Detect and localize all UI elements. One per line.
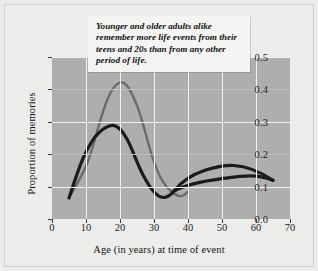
gridline-x-10 xyxy=(86,57,87,219)
plot-area xyxy=(52,57,290,219)
xtick-label-70: 70 xyxy=(278,222,302,233)
chart-figure: 0.5 0.4 0.3 0.2 0.1 0.0 0 10 20 30 40 50… xyxy=(0,0,318,271)
gridline-x-60 xyxy=(256,57,257,219)
xtick-label-10: 10 xyxy=(74,222,98,233)
data-curves xyxy=(52,57,290,219)
annotation-callout: Younger and older adults alike remember … xyxy=(88,16,250,72)
gridline-x-20 xyxy=(120,57,121,219)
ytick-mark-0.1 xyxy=(48,187,52,188)
ytick-label-0.4: 0.4 xyxy=(238,84,268,95)
ytick-label-0.3: 0.3 xyxy=(238,116,268,127)
y-axis-title: Proportion of memories xyxy=(26,69,37,219)
x-axis-title: Age (in years) at time of event xyxy=(0,244,318,255)
xtick-label-20: 20 xyxy=(108,222,132,233)
xtick-label-0: 0 xyxy=(40,222,64,233)
ytick-mark-0.4 xyxy=(48,89,52,90)
gridline-x-30 xyxy=(154,57,155,219)
ytick-label-0.2: 0.2 xyxy=(238,149,268,160)
gridline-x-50 xyxy=(222,57,223,219)
ytick-mark-0.3 xyxy=(48,122,52,123)
ytick-label-0.1: 0.1 xyxy=(238,181,268,192)
xtick-label-50: 50 xyxy=(210,222,234,233)
xtick-label-30: 30 xyxy=(142,222,166,233)
ytick-mark-0.2 xyxy=(48,154,52,155)
xtick-label-40: 40 xyxy=(176,222,200,233)
xtick-label-60: 60 xyxy=(244,222,268,233)
ytick-mark-0.5 xyxy=(48,57,52,58)
gridline-x-40 xyxy=(188,57,189,219)
